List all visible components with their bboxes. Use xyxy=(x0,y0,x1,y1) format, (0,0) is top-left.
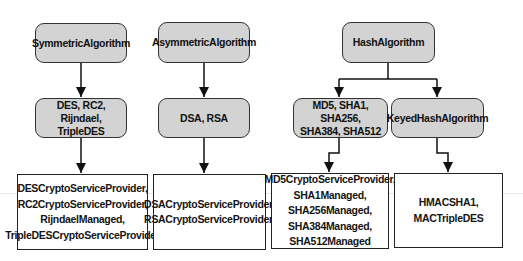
node-symmetric-implementations: DES, RC2, Rijndael, TripleDES xyxy=(35,98,127,138)
node-label: DESCryptoServiceProvider, RC2CryptoServi… xyxy=(5,181,159,243)
node-symmetric-algorithm: SymmetricAlgorithm xyxy=(35,23,127,63)
node-keyed-hash-providers: HMACSHA1, MACTripleDES xyxy=(394,173,503,248)
node-label: KeyedHashAlgorithm xyxy=(387,112,488,125)
node-asymmetric-providers: DSACryptoServiceProvider, RSACryptoServi… xyxy=(153,174,266,250)
node-label: DSACryptoServiceProvider, RSACryptoServi… xyxy=(144,197,275,228)
node-asymmetric-algorithm: AsymmetricAlgorithm xyxy=(158,22,250,63)
node-label: HashAlgorithm xyxy=(353,36,424,49)
node-hash-providers: MD5CryptoServiceProvider, SHA1Managed, S… xyxy=(271,173,389,249)
node-label: MD5, SHA1, SHA256, SHA384, SHA512 xyxy=(294,99,387,138)
node-label: AsymmetricAlgorithm xyxy=(152,36,256,49)
node-symmetric-providers: DESCryptoServiceProvider, RC2CryptoServi… xyxy=(17,174,148,250)
node-keyed-hash-algorithm: KeyedHashAlgorithm xyxy=(391,98,484,138)
node-label: MD5CryptoServiceProvider, SHA1Managed, S… xyxy=(265,172,396,250)
node-label: HMACSHA1, MACTripleDES xyxy=(414,195,484,226)
node-hash-implementations: MD5, SHA1, SHA256, SHA384, SHA512 xyxy=(293,98,388,138)
node-label: SymmetricAlgorithm xyxy=(32,37,130,50)
node-asymmetric-implementations: DSA, RSA xyxy=(158,98,250,138)
node-hash-algorithm: HashAlgorithm xyxy=(342,22,435,63)
node-label: DSA, RSA xyxy=(180,112,228,125)
node-label: DES, RC2, Rijndael, TripleDES xyxy=(36,99,126,138)
